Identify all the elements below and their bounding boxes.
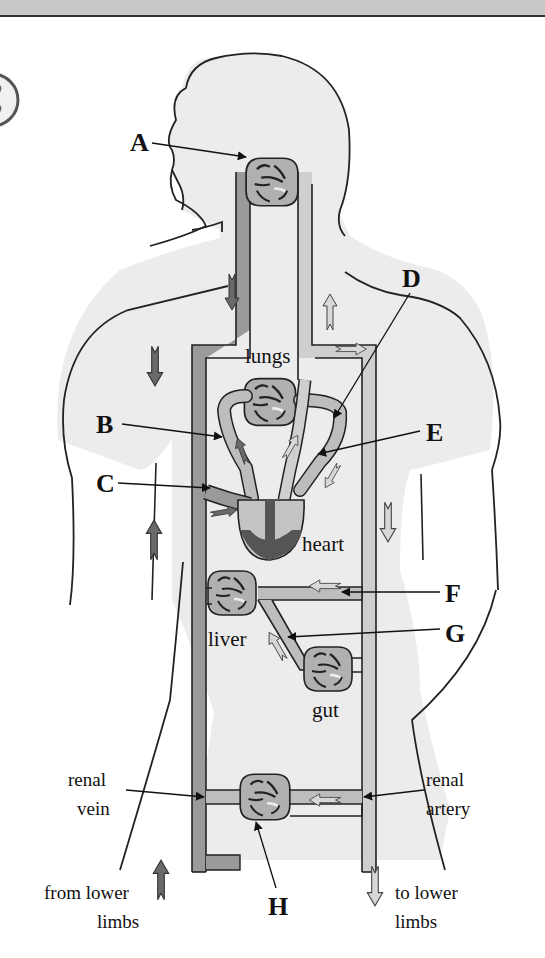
organ-label-gut: gut bbox=[312, 698, 339, 722]
renal-vein bbox=[206, 855, 240, 870]
circulatory-diagram: A D B E C F G H lungs heart liver gut re… bbox=[0, 0, 545, 958]
to-lower-limbs-line1: to lower bbox=[395, 882, 458, 903]
emblem-fragment bbox=[0, 74, 18, 126]
from-lower-limbs-line1: from lower bbox=[44, 882, 130, 903]
gut-capillary-bed bbox=[304, 647, 352, 691]
label-c: C bbox=[96, 469, 115, 498]
liver-capillary-bed bbox=[208, 571, 256, 615]
lungs-capillary-bed bbox=[244, 379, 295, 426]
label-b: B bbox=[96, 410, 113, 439]
label-e: E bbox=[426, 418, 443, 447]
renal-vein-label-line1: renal bbox=[68, 769, 106, 790]
renal-artery-label-line1: renal bbox=[426, 769, 464, 790]
hepatic-artery bbox=[258, 587, 362, 600]
renal-artery-label-line2: artery bbox=[426, 798, 471, 819]
organ-label-lungs: lungs bbox=[245, 344, 291, 368]
from-lower-limbs-line2: limbs bbox=[97, 911, 139, 932]
organ-label-heart: heart bbox=[302, 532, 344, 556]
kidney-capillary-bed bbox=[240, 774, 290, 819]
to-lower-limbs-line2: limbs bbox=[395, 911, 437, 932]
label-g: G bbox=[445, 619, 465, 648]
label-d: D bbox=[402, 264, 421, 293]
flow-arrow-up-icon bbox=[153, 860, 168, 900]
renal-vein-label-line2: vein bbox=[77, 798, 110, 819]
left-waist-outline bbox=[120, 562, 183, 870]
flow-arrow-up-icon bbox=[146, 520, 161, 560]
right-arm-line bbox=[421, 474, 423, 560]
organ-label-liver: liver bbox=[208, 627, 246, 651]
label-a: A bbox=[130, 128, 149, 157]
label-f: F bbox=[445, 579, 461, 608]
label-h: H bbox=[268, 892, 288, 921]
head-capillary-bed bbox=[246, 158, 298, 206]
